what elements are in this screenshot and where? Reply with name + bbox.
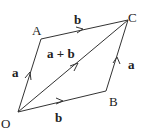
edge-label-OA: a (12, 66, 19, 79)
arrow-icon-BC (113, 57, 120, 64)
point-label-A: A (32, 24, 41, 37)
point-label-O: O (1, 117, 10, 130)
point-label-C: C (128, 11, 137, 24)
arrow-icon-OB (56, 98, 63, 104)
edge-label-OB: b (55, 111, 62, 124)
edge-OA (18, 39, 41, 112)
vector-diagram: A C B O a b b a a + b (0, 0, 147, 135)
arrow-icon-AC (76, 27, 83, 33)
edge-label-AC: b (74, 13, 81, 26)
point-label-B: B (109, 95, 118, 108)
edge-label-OC: a + b (47, 47, 75, 60)
edge-AC (41, 20, 128, 39)
edge-BC (106, 20, 128, 91)
edge-label-BC: a (128, 58, 135, 71)
